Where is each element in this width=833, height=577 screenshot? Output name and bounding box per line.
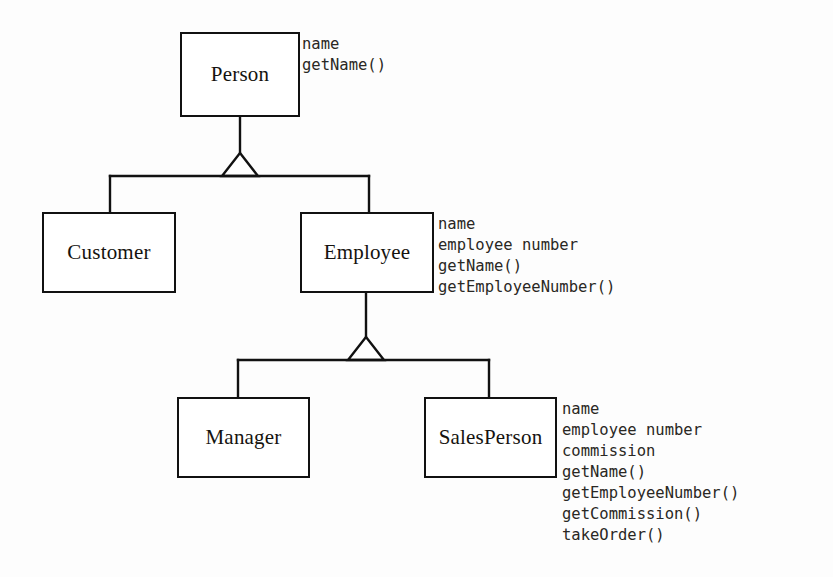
- member-line: getCommission(): [562, 504, 739, 525]
- inheritance-triangle-icon: [222, 153, 258, 176]
- class-box-salesperson[interactable]: SalesPerson: [424, 397, 557, 478]
- inheritance-triangle-icon: [348, 337, 384, 360]
- member-line: getEmployeeNumber(): [438, 277, 615, 298]
- member-line: name: [562, 399, 739, 420]
- class-box-customer[interactable]: Customer: [42, 212, 176, 293]
- class-box-employee[interactable]: Employee: [300, 212, 434, 293]
- class-box-manager[interactable]: Manager: [177, 397, 310, 478]
- class-box-person[interactable]: Person: [180, 32, 300, 117]
- class-name-salesperson: SalesPerson: [439, 427, 543, 448]
- member-line: getName(): [302, 55, 386, 76]
- member-line: takeOrder(): [562, 525, 739, 546]
- class-name-customer: Customer: [67, 242, 150, 263]
- member-line: name: [438, 214, 615, 235]
- member-line: getName(): [562, 462, 739, 483]
- member-line: commission: [562, 441, 739, 462]
- class-name-manager: Manager: [205, 427, 281, 448]
- member-line: getName(): [438, 256, 615, 277]
- uml-class-diagram: Person namegetName() Customer Employee n…: [0, 0, 833, 577]
- members-salesperson: nameemployee numbercommissiongetName()ge…: [562, 399, 739, 546]
- class-name-employee: Employee: [324, 242, 411, 263]
- members-employee: nameemployee numbergetName()getEmployeeN…: [438, 214, 615, 298]
- member-line: employee number: [438, 235, 615, 256]
- member-line: getEmployeeNumber(): [562, 483, 739, 504]
- member-line: employee number: [562, 420, 739, 441]
- class-name-person: Person: [211, 64, 269, 85]
- member-line: name: [302, 34, 386, 55]
- members-person: namegetName(): [302, 34, 386, 76]
